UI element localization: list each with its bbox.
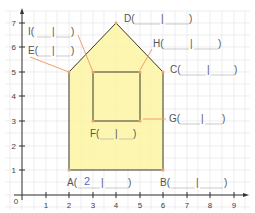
svg-text:3: 3 [91,201,96,210]
svg-text:5: 5 [12,68,17,77]
label-B: B( | ) [160,177,227,188]
svg-text:): ) [133,128,136,139]
x-axis-labels: 0 1 2 3 4 5 6 7 8 9 [14,197,237,210]
svg-text:): ) [71,26,74,37]
svg-text:7: 7 [12,19,17,28]
svg-text:|: | [207,64,210,75]
svg-text:): ) [222,113,225,124]
svg-text:5: 5 [138,201,143,210]
svg-text:6: 6 [12,43,17,52]
svg-text:|: | [52,45,55,56]
coordinate-diagram: 0 1 2 3 4 5 6 7 8 9 1 2 3 4 5 6 7 I( | [0,0,255,213]
svg-text:|: | [196,177,199,188]
svg-text:9: 9 [232,201,237,210]
svg-text:2: 2 [67,201,72,210]
svg-text:C(: C( [170,64,181,75]
label-G: G( | ) [169,113,225,124]
svg-text:): ) [224,177,227,188]
house-shape [69,23,163,170]
svg-text:|: | [201,113,204,124]
svg-text:G(: G( [169,113,181,124]
svg-text:|: | [101,177,104,188]
origin-label: 0 [14,197,19,206]
svg-text:2: 2 [12,142,17,151]
label-I: I( | ) [28,26,74,37]
y-axis-labels: 1 2 3 4 5 6 7 [12,19,17,175]
label-A: A( 2 | ) [67,175,131,188]
svg-text:|: | [115,128,118,139]
svg-text:A(: A( [67,177,78,188]
svg-text:): ) [218,38,221,49]
svg-text:1: 1 [12,166,17,175]
svg-text:): ) [128,177,131,188]
svg-text:|: | [190,38,193,49]
svg-text:3: 3 [12,117,17,126]
svg-text:I(: I( [28,26,35,37]
svg-text:D(: D( [124,13,135,24]
svg-text:): ) [234,64,237,75]
svg-text:6: 6 [161,201,166,210]
svg-text:B(: B( [160,177,171,188]
svg-text:4: 4 [114,201,119,210]
svg-text:H(: H( [153,38,164,49]
svg-text:): ) [189,13,192,24]
label-D: D( | ) [124,13,192,24]
label-C: C( | ) [170,64,237,75]
svg-text:8: 8 [208,201,213,210]
svg-text:): ) [71,45,74,56]
svg-text:1: 1 [44,201,49,210]
label-E: E( | ) [28,45,74,56]
svg-text:4: 4 [12,92,17,101]
svg-text:7: 7 [185,201,190,210]
svg-text:F(: F( [90,128,100,139]
answer-A-x[interactable]: 2 [84,175,90,187]
svg-text:|: | [161,13,164,24]
svg-text:E(: E( [28,45,39,56]
svg-text:|: | [52,26,55,37]
